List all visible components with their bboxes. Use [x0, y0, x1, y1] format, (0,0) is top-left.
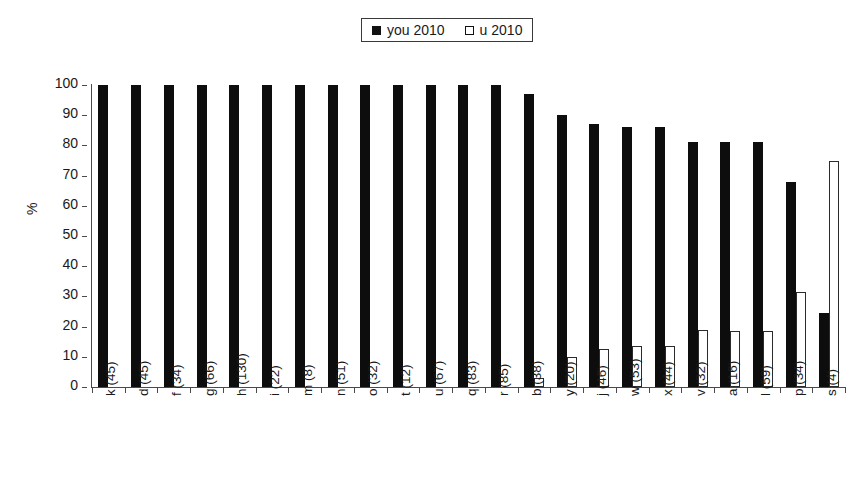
bar-group: [288, 85, 321, 387]
bar-you-2010[interactable]: [458, 85, 468, 387]
bar-you-2010[interactable]: [491, 85, 501, 387]
x-tick-label: x (44): [661, 361, 675, 396]
bar-you-2010[interactable]: [360, 85, 370, 387]
x-tick-label: y (20): [563, 361, 577, 396]
y-tick-mark: [82, 266, 87, 267]
bar-you-2010[interactable]: [655, 127, 665, 387]
x-tick-mark: [92, 387, 93, 393]
y-tick-label: 90: [62, 106, 78, 120]
x-tick-label: d (45): [137, 361, 151, 396]
bar-group: [223, 85, 256, 387]
x-tick-mark: [387, 387, 388, 393]
bar-chart: % 1009080706050403020100 k (45)d (45)f (…: [0, 0, 853, 485]
y-tick-mark: [82, 176, 87, 177]
x-tick-mark: [354, 387, 355, 393]
bar-you-2010[interactable]: [753, 142, 763, 387]
bar-you-2010[interactable]: [688, 142, 698, 387]
bar-you-2010[interactable]: [131, 85, 141, 387]
bar-group: [92, 85, 125, 387]
y-tick-mark: [82, 145, 87, 146]
x-tick-label: r (85): [497, 364, 511, 396]
x-tick-mark: [747, 387, 748, 393]
bar-group: [518, 85, 551, 387]
x-tick-mark: [452, 387, 453, 393]
y-tick-mark: [82, 296, 87, 297]
bar-you-2010[interactable]: [589, 124, 599, 387]
bar-you-2010[interactable]: [426, 85, 436, 387]
bar-you-2010[interactable]: [622, 127, 632, 387]
bar-group: [190, 85, 223, 387]
plot-area: [92, 85, 845, 387]
x-tick-label: u (67): [432, 361, 446, 396]
y-tick-label: 20: [62, 318, 78, 332]
y-tick-label: 70: [62, 167, 78, 181]
bar-you-2010[interactable]: [524, 94, 534, 387]
y-tick-mark: [82, 115, 87, 116]
x-tick-mark: [780, 387, 781, 393]
bar-group: [485, 85, 518, 387]
x-tick-label: n (51): [334, 361, 348, 396]
bar-group: [157, 85, 190, 387]
x-tick-mark: [649, 387, 650, 393]
x-tick-label: o (32): [366, 361, 380, 396]
bar-you-2010[interactable]: [164, 85, 174, 387]
x-tick-mark: [223, 387, 224, 393]
x-tick-mark: [518, 387, 519, 393]
bar-group: [812, 85, 845, 387]
y-tick-label: 50: [62, 227, 78, 241]
x-tick-mark: [845, 387, 846, 393]
x-tick-mark: [616, 387, 617, 393]
bar-group: [452, 85, 485, 387]
bar-group: [583, 85, 616, 387]
bar-you-2010[interactable]: [197, 85, 207, 387]
x-tick-mark: [321, 387, 322, 393]
bar-group: [616, 85, 649, 387]
y-tick-label: 100: [55, 76, 78, 90]
x-tick-label: h (130): [235, 353, 249, 396]
y-axis-title: %: [24, 203, 40, 215]
y-tick-label: 0: [70, 378, 78, 392]
x-tick-label: i (22): [268, 365, 282, 396]
bar-you-2010[interactable]: [393, 85, 403, 387]
bar-you-2010[interactable]: [98, 85, 108, 387]
x-tick-mark: [125, 387, 126, 393]
y-tick-mark: [82, 387, 87, 388]
x-tick-label: p (34): [792, 361, 806, 396]
bar-group: [256, 85, 289, 387]
x-tick-mark: [583, 387, 584, 393]
x-tick-mark: [190, 387, 191, 393]
y-tick-label: 10: [62, 348, 78, 362]
x-tick-label: f (34): [170, 364, 184, 396]
x-tick-label: w (53): [628, 358, 642, 396]
bar-group: [747, 85, 780, 387]
x-tick-mark: [812, 387, 813, 393]
y-tick-mark: [82, 327, 87, 328]
bar-group: [649, 85, 682, 387]
bar-you-2010[interactable]: [557, 115, 567, 387]
x-tick-mark: [419, 387, 420, 393]
bar-group: [321, 85, 354, 387]
bar-you-2010[interactable]: [720, 142, 730, 387]
bar-you-2010[interactable]: [328, 85, 338, 387]
bar-group: [550, 85, 583, 387]
y-tick-label: 60: [62, 197, 78, 211]
x-tick-mark: [485, 387, 486, 393]
x-tick-label: l (59): [759, 365, 773, 396]
x-tick-mark: [157, 387, 158, 393]
x-tick-mark: [714, 387, 715, 393]
bar-u-2010[interactable]: [829, 161, 839, 388]
y-tick-mark: [82, 357, 87, 358]
bar-group: [714, 85, 747, 387]
bar-you-2010[interactable]: [262, 85, 272, 387]
x-tick-label: k (45): [104, 361, 118, 396]
x-tick-label: b (38): [530, 361, 544, 396]
bar-group: [780, 85, 813, 387]
bar-group: [681, 85, 714, 387]
bar-group: [125, 85, 158, 387]
bar-you-2010[interactable]: [786, 182, 796, 387]
x-tick-label: t (12): [399, 364, 413, 396]
bar-you-2010[interactable]: [229, 85, 239, 387]
bar-you-2010[interactable]: [295, 85, 305, 387]
bar-group: [419, 85, 452, 387]
x-tick-mark: [681, 387, 682, 393]
